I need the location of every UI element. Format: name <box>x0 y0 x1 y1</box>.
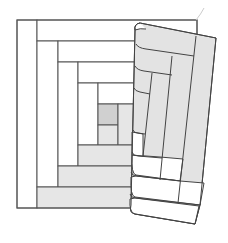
center-square <box>98 104 118 125</box>
log-white-5 <box>58 62 78 166</box>
folded-flap <box>130 23 216 224</box>
curl-mark <box>196 8 204 20</box>
quilt-block-svg <box>0 0 228 243</box>
log-white-1 <box>17 20 37 208</box>
log-white-3 <box>37 41 58 187</box>
quilt-diagram: Log cabin quilt block with folded corner <box>0 0 228 243</box>
flap-white-square <box>132 132 143 156</box>
log-white-7 <box>78 83 98 145</box>
log-gray-1 <box>98 125 118 145</box>
